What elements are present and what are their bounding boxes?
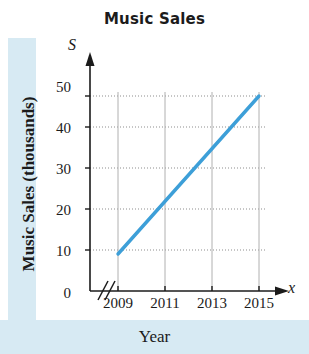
chart-plot-area (0, 0, 309, 354)
y-axis (86, 52, 95, 291)
chart-figure: Music Sales Music Sales (thousands) Year… (0, 0, 309, 354)
data-line-music-sales (118, 96, 259, 254)
